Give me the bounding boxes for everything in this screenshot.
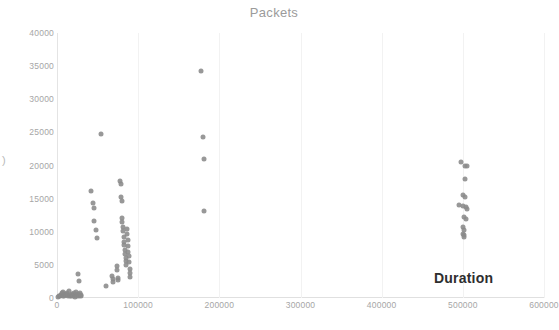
data-point bbox=[94, 236, 99, 241]
x-axis-tick-label: 400000 bbox=[367, 300, 397, 310]
x-axis-tick-label: 600000 bbox=[529, 300, 559, 310]
data-point bbox=[124, 227, 129, 232]
data-point bbox=[464, 206, 469, 211]
y-axis-tick-label: 10000 bbox=[2, 227, 54, 237]
data-point bbox=[128, 274, 133, 279]
x-axis-tick-label: 200000 bbox=[205, 300, 235, 310]
data-point bbox=[91, 205, 96, 210]
y-axis-tick-label: 40000 bbox=[2, 28, 54, 38]
y-axis-tick-label: 0 bbox=[2, 293, 54, 303]
data-point bbox=[116, 278, 121, 283]
data-point bbox=[199, 68, 204, 73]
data-point bbox=[111, 280, 116, 285]
data-point bbox=[201, 135, 206, 140]
data-point bbox=[115, 268, 120, 273]
data-point bbox=[126, 253, 131, 258]
data-point bbox=[92, 219, 97, 224]
y-axis-tick-labels: 0500010000150002000025000300003500040000 bbox=[0, 33, 54, 298]
data-point bbox=[465, 164, 470, 169]
y-axis-line bbox=[57, 33, 58, 298]
data-point bbox=[201, 156, 206, 161]
gridline-vertical bbox=[301, 33, 302, 298]
data-point bbox=[201, 208, 206, 213]
data-point bbox=[463, 177, 468, 182]
gridline-vertical bbox=[138, 33, 139, 298]
x-axis-title: Duration bbox=[434, 270, 493, 286]
data-point bbox=[125, 232, 130, 237]
y-axis-tick-label: 20000 bbox=[2, 161, 54, 171]
gridline-vertical bbox=[219, 33, 220, 298]
y-axis-tick-label: 25000 bbox=[2, 127, 54, 137]
data-point bbox=[126, 244, 131, 249]
data-point bbox=[103, 284, 108, 289]
x-axis-tick-label: 300000 bbox=[286, 300, 316, 310]
x-axis-tick-label: 100000 bbox=[123, 300, 153, 310]
data-point bbox=[76, 272, 81, 277]
gridline-vertical bbox=[544, 33, 545, 298]
data-point bbox=[118, 182, 123, 187]
data-point bbox=[462, 194, 467, 199]
data-point bbox=[463, 217, 468, 222]
data-point bbox=[127, 260, 132, 265]
data-point bbox=[77, 278, 82, 283]
data-point bbox=[98, 131, 103, 136]
data-point bbox=[119, 198, 124, 203]
data-point bbox=[120, 219, 125, 224]
y-axis-tick-label: 15000 bbox=[2, 194, 54, 204]
data-point bbox=[89, 188, 94, 193]
data-point bbox=[125, 237, 130, 242]
data-point bbox=[93, 228, 98, 233]
y-axis-tick-label: 35000 bbox=[2, 61, 54, 71]
y-axis-tick-label: 30000 bbox=[2, 94, 54, 104]
data-point bbox=[79, 293, 84, 298]
x-axis-tick-label: 0 bbox=[55, 300, 60, 310]
gridline-vertical bbox=[382, 33, 383, 298]
x-axis-tick-labels: 0100000200000300000400000500000600000 bbox=[57, 300, 544, 314]
data-point bbox=[461, 235, 466, 240]
y-axis-tick-label: 5000 bbox=[2, 260, 54, 270]
x-axis-tick-label: 500000 bbox=[448, 300, 478, 310]
chart-title: Packets bbox=[0, 5, 548, 20]
plot-area bbox=[57, 33, 544, 298]
